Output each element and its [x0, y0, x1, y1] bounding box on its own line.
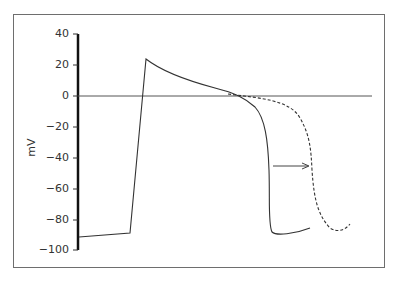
series-dashed-action-potential: [228, 94, 350, 231]
ytick-label: −100: [29, 244, 69, 256]
ytick-label: 0: [29, 90, 69, 102]
series-solid-action-potential: [79, 59, 310, 237]
prolongation-arrow-icon: [273, 163, 309, 169]
ytick-label: −20: [29, 121, 69, 133]
ytick-label: −80: [29, 214, 69, 226]
ytick-label: 20: [29, 59, 69, 71]
ytick-label: 40: [29, 28, 69, 40]
y-axis-label: mV: [25, 138, 38, 156]
ytick-label: −60: [29, 183, 69, 195]
chart-plot: [0, 0, 397, 281]
